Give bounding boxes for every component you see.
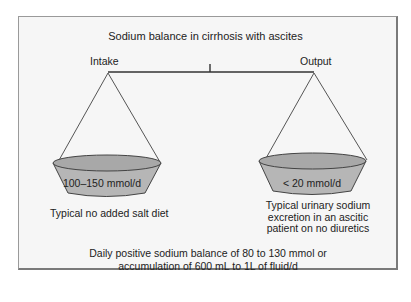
- right-string-a: [265, 73, 314, 160]
- output-label: Output: [300, 55, 332, 67]
- right-string-b: [314, 73, 367, 160]
- output-caption: Typical urinary sodium excretion in an a…: [262, 200, 374, 235]
- intake-caption: Typical no added salt diet: [50, 207, 169, 219]
- left-string-b: [108, 73, 160, 162]
- intake-value: 100–150 mmol/d: [52, 177, 152, 189]
- output-value: < 20 mmol/d: [262, 177, 362, 189]
- diagram-title: Sodium balance in cirrhosis with ascites: [0, 30, 411, 42]
- left-string-a: [58, 73, 108, 162]
- intake-label: Intake: [90, 55, 119, 67]
- left-pan: [53, 155, 161, 197]
- summary-text: Daily positive sodium balance of 80 to 1…: [60, 247, 356, 272]
